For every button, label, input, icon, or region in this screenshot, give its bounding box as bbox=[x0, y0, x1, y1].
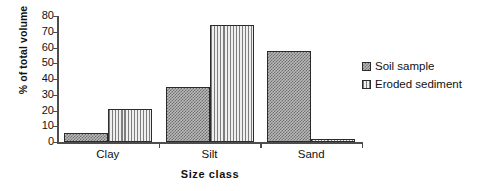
chart-legend: Soil sampleEroded sediment bbox=[362, 58, 486, 94]
y-tick-mark bbox=[53, 48, 57, 49]
x-axis-tick-labels: ClaySiltSand bbox=[57, 148, 363, 164]
y-axis-tick-labels: 01020304050607080 bbox=[28, 0, 54, 191]
y-axis-line bbox=[57, 16, 59, 143]
y-tick-label: 70 bbox=[28, 26, 54, 37]
y-tick-mark bbox=[53, 16, 57, 17]
y-tick-mark bbox=[53, 111, 57, 112]
legend-item-eroded-sediment[interactable]: Eroded sediment bbox=[362, 76, 486, 92]
x-tick-label-clay: Clay bbox=[57, 148, 159, 161]
legend-label: Soil sample bbox=[375, 60, 434, 73]
legend-swatch-icon bbox=[362, 62, 371, 71]
x-tick-label-sand: Sand bbox=[260, 148, 362, 161]
y-tick-label: 0 bbox=[28, 136, 54, 147]
legend-item-soil-sample[interactable]: Soil sample bbox=[362, 58, 486, 74]
bar-silt-eroded-sediment bbox=[210, 25, 254, 142]
bar-silt-soil-sample bbox=[166, 87, 210, 142]
legend-label: Eroded sediment bbox=[375, 78, 462, 91]
y-tick-mark bbox=[53, 32, 57, 33]
bar-sand-soil-sample bbox=[267, 51, 311, 142]
y-tick-mark bbox=[53, 63, 57, 64]
y-tick-label: 10 bbox=[28, 120, 54, 131]
y-tick-label: 20 bbox=[28, 105, 54, 116]
plot-area bbox=[57, 16, 362, 142]
y-tick-label: 50 bbox=[28, 57, 54, 68]
y-tick-mark bbox=[53, 142, 57, 143]
y-tick-mark bbox=[53, 79, 57, 80]
x-axis-title: Size class bbox=[57, 168, 363, 180]
x-tick-label-silt: Silt bbox=[159, 148, 261, 161]
y-tick-mark bbox=[53, 126, 57, 127]
bar-clay-soil-sample bbox=[64, 133, 108, 142]
y-tick-label: 30 bbox=[28, 89, 54, 100]
bar-chart: % of total volume 01020304050607080 Clay… bbox=[0, 0, 486, 191]
bar-sand-eroded-sediment bbox=[311, 139, 355, 142]
y-tick-label: 60 bbox=[28, 42, 54, 53]
bar-clay-eroded-sediment bbox=[108, 109, 152, 142]
y-tick-label: 80 bbox=[28, 10, 54, 21]
y-tick-label: 40 bbox=[28, 73, 54, 84]
legend-swatch-icon bbox=[362, 80, 371, 89]
y-tick-mark bbox=[53, 95, 57, 96]
x-axis-line bbox=[57, 142, 363, 144]
